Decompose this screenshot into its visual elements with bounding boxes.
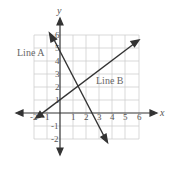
x-axis-left-arrow-icon: [16, 110, 23, 116]
coordinate-graph: x y -2 -1 1 2 3 4 5 6 -2 -1 1 2 3 4 5 6 …: [0, 0, 173, 170]
svg-text:3: 3: [55, 69, 60, 79]
svg-text:4: 4: [55, 56, 60, 66]
axes: [16, 18, 157, 155]
svg-text:6: 6: [137, 112, 142, 122]
svg-text:2: 2: [55, 82, 60, 92]
y-axis-label: y: [56, 5, 62, 16]
svg-text:-1: -1: [51, 121, 59, 131]
svg-text:-2: -2: [51, 134, 59, 144]
svg-text:1: 1: [71, 112, 76, 122]
line-a-label: Line A: [17, 47, 45, 58]
svg-text:5: 5: [123, 112, 128, 122]
x-axis-label: x: [159, 107, 165, 118]
x-axis-right-arrow-icon: [150, 110, 157, 116]
svg-text:3: 3: [97, 112, 102, 122]
grid: [34, 35, 139, 139]
y-axis-down-arrow-icon: [57, 148, 63, 155]
line-b: [36, 40, 139, 118]
svg-text:4: 4: [110, 112, 115, 122]
y-axis-up-arrow-icon: [57, 18, 63, 25]
svg-text:2: 2: [84, 112, 89, 122]
line-a-bottom-arrow-icon: [101, 134, 108, 143]
x-tick-labels: -2 -1 1 2 3 4 5 6: [30, 112, 142, 122]
line-b-label: Line B: [96, 75, 124, 86]
